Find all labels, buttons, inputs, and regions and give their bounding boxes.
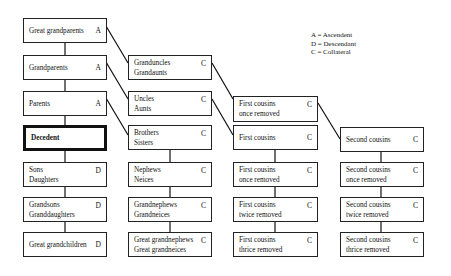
box-label: First cousins twice removed xyxy=(239,200,282,220)
relation-code: C xyxy=(413,166,418,176)
legend-descendant: D = Descendant xyxy=(311,40,356,49)
box-sons-daughters: Sons Daughters D xyxy=(23,162,107,187)
box-great-grandnephews-grandneices: Great grandnephews Great grandneices C xyxy=(128,232,212,257)
relation-code: C xyxy=(201,166,206,176)
relation-code: C xyxy=(307,201,312,211)
relation-code: C xyxy=(413,135,418,145)
box-label: Grandsons Granddaughters xyxy=(29,200,75,220)
box-first-cousins: First cousins C xyxy=(233,125,318,150)
box-grandnephews-grandneices: Grandnephews Grandneices C xyxy=(128,197,212,222)
box-great-grandchildren: Great grandchildren D xyxy=(23,232,107,257)
box-label: Granduncles Grandaunts xyxy=(134,58,170,78)
box-label: Parents xyxy=(29,99,50,109)
box-label: Great grandnephews Great grandneices xyxy=(134,235,193,255)
box-label: Uncles Aunts xyxy=(134,94,154,114)
relation-code: C xyxy=(307,100,312,110)
box-granduncles-grandaunts: Granduncles Grandaunts C xyxy=(128,55,212,80)
box-uncles-aunts: Uncles Aunts C xyxy=(128,91,212,116)
box-grandparents: Grandparents A xyxy=(23,55,107,80)
box-label: First cousins thrice removed xyxy=(239,235,282,255)
box-label: First cousins once removed xyxy=(239,99,280,119)
box-first-cousins-thrice-removed: First cousins thrice removed C xyxy=(233,232,318,257)
box-first-cousins-once-removed: First cousins once removed C xyxy=(233,162,318,187)
box-label: Sons Daughters xyxy=(29,165,59,185)
relation-code: C xyxy=(201,59,206,69)
relation-code: C xyxy=(201,236,206,246)
box-second-cousins: Second cousins C xyxy=(340,127,424,152)
box-decedent: Decedent xyxy=(23,125,107,151)
relation-code: D xyxy=(96,166,101,176)
relation-code: C xyxy=(413,236,418,246)
box-label: Brothers Sisters xyxy=(134,128,159,148)
box-second-cousins-twice-removed: Second cousins twice removed C xyxy=(340,197,424,222)
box-label: Great grandchildren xyxy=(29,240,87,250)
relation-code: D xyxy=(96,201,101,211)
relation-code: A xyxy=(96,26,101,36)
relation-code: A xyxy=(96,99,101,109)
box-label: Great grandparents xyxy=(29,26,84,36)
box-second-cousins-thrice-removed: Second cousins thrice removed C xyxy=(340,232,424,257)
box-second-cousins-once-removed: Second cousins once removed C xyxy=(340,162,424,187)
relation-code: C xyxy=(201,201,206,211)
relation-code: C xyxy=(201,129,206,139)
box-label: Second cousins thrice removed xyxy=(346,235,391,255)
legend-ascendent: A = Ascendent xyxy=(311,31,356,40)
box-first-cousins-twice-removed: First cousins twice removed C xyxy=(233,197,318,222)
legend-collateral: C = Collateral xyxy=(311,48,356,57)
box-nephews-neices: Nephews Neices C xyxy=(128,162,212,187)
box-label: Second cousins twice removed xyxy=(346,200,391,220)
relation-code: C xyxy=(307,236,312,246)
box-great-grandparents: Great grandparents A xyxy=(23,18,107,43)
box-label: First cousins once removed xyxy=(239,165,280,185)
relation-code: C xyxy=(413,201,418,211)
legend: A = Ascendent D = Descendant C = Collate… xyxy=(311,31,356,57)
relation-code: C xyxy=(307,133,312,143)
kinship-diagram: Great grandparents A Grandparents A Pare… xyxy=(0,0,451,276)
relation-code: D xyxy=(96,240,101,250)
box-brothers-sisters: Brothers Sisters C xyxy=(128,125,212,150)
relation-code: A xyxy=(96,63,101,73)
box-parents: Parents A xyxy=(23,91,107,116)
box-grandsons-granddaughters: Grandsons Granddaughters D xyxy=(23,197,107,222)
box-label: First cousins xyxy=(239,133,276,143)
box-label: Grandparents xyxy=(29,63,68,73)
box-label: Grandnephews Grandneices xyxy=(134,200,177,220)
relation-code: C xyxy=(201,95,206,105)
box-label: Nephews Neices xyxy=(134,165,161,185)
box-label: Second cousins xyxy=(346,135,391,145)
box-first-cousins-once-removed-up: First cousins once removed C xyxy=(233,96,318,122)
relation-code: C xyxy=(307,166,312,176)
box-label: Second cousins once removed xyxy=(346,165,391,185)
box-label: Decedent xyxy=(31,133,59,143)
